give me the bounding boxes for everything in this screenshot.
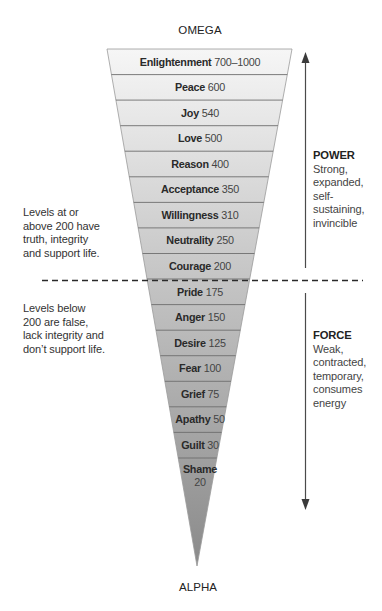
power-arrow-icon [302, 52, 310, 268]
note-line: Levels below [23, 302, 105, 316]
level-row: Grief 75 [100, 388, 300, 401]
power-desc-line: Strong, [313, 163, 365, 177]
force-note: FORCE Weak, contracted, temporary, consu… [313, 329, 366, 410]
level-name: Joy [181, 107, 199, 119]
alpha-label: ALPHA [158, 581, 238, 593]
level-value: 30 [207, 439, 219, 451]
level-row: Guilt 30 [100, 439, 300, 452]
level-row: Shame20 [100, 463, 300, 489]
level-row: Peace 600 [100, 81, 300, 94]
level-row: Enlightenment 700–1000 [100, 56, 300, 69]
force-desc-line: Weak, [313, 343, 366, 357]
power-note: POWER Strong, expanded, self- sustaining… [313, 149, 365, 230]
level-value: 250 [216, 234, 233, 246]
power-title: POWER [313, 149, 365, 163]
level-value: 20 [194, 476, 206, 488]
level-name: Reason [171, 158, 209, 170]
level-value: 350 [222, 183, 239, 195]
level-value: 50 [213, 413, 225, 425]
force-desc-line: energy [313, 397, 366, 411]
force-desc-line: contracted, [313, 356, 366, 370]
level-row: Love 500 [100, 132, 300, 145]
level-row: Anger 150 [100, 311, 300, 324]
level-row: Pride 175 [100, 286, 300, 299]
note-line: truth, integrity [23, 233, 100, 247]
level-value: 500 [205, 132, 222, 144]
level-name: Courage [169, 260, 211, 272]
level-value: 175 [206, 286, 223, 298]
level-value: 75 [208, 388, 220, 400]
omega-label: OMEGA [160, 24, 240, 36]
level-name: Apathy [175, 413, 210, 425]
note-line: don’t support life. [23, 343, 105, 357]
level-value: 700–1000 [214, 56, 260, 68]
power-desc-line: sustaining, [313, 203, 365, 217]
level-name: Love [178, 132, 202, 144]
level-row: Acceptance 350 [100, 183, 300, 196]
note-line: above 200 have [23, 220, 100, 234]
level-name: Desire [174, 337, 206, 349]
power-desc-line: invincible [313, 217, 365, 231]
level-name: Grief [181, 388, 205, 400]
level-name: Guilt [181, 439, 204, 451]
note-line: and support life. [23, 247, 100, 261]
level-value: 310 [221, 209, 238, 221]
level-name: Acceptance [161, 183, 219, 195]
level-value: 200 [214, 260, 231, 272]
level-row: Joy 540 [100, 107, 300, 120]
level-name: Neutrality [166, 234, 213, 246]
level-name: Anger [175, 311, 205, 323]
level-value: 100 [204, 362, 221, 374]
level-row: Apathy 50 [100, 413, 300, 426]
level-name: Willingness [161, 209, 218, 221]
note-above-200: Levels at or above 200 have truth, integ… [23, 206, 100, 260]
level-value: 540 [202, 107, 219, 119]
level-row: Willingness 310 [100, 209, 300, 222]
power-desc-line: self- [313, 190, 365, 204]
power-desc-line: expanded, [313, 176, 365, 190]
level-value: 400 [212, 158, 229, 170]
level-row: Neutrality 250 [100, 234, 300, 247]
level-name: Pride [177, 286, 203, 298]
level-row: Fear 100 [100, 362, 300, 375]
level-value: 600 [208, 81, 225, 93]
note-line: 200 are false, [23, 316, 105, 330]
force-title: FORCE [313, 329, 366, 343]
note-line: lack integrity and [23, 329, 105, 343]
level-row: Reason 400 [100, 158, 300, 171]
level-row: Courage 200 [100, 260, 300, 273]
level-name: Fear [179, 362, 201, 374]
note-line: Levels at or [23, 206, 100, 220]
level-value: 150 [208, 311, 225, 323]
level-name: Peace [175, 81, 205, 93]
force-desc-line: consumes [313, 383, 366, 397]
level-name: Enlightenment [140, 56, 212, 68]
level-value: 125 [209, 337, 226, 349]
force-arrow-icon [302, 293, 310, 510]
note-below-200: Levels below 200 are false, lack integri… [23, 302, 105, 356]
level-row: Desire 125 [100, 337, 300, 350]
level-name: Shame [183, 463, 217, 475]
force-desc-line: temporary, [313, 370, 366, 384]
